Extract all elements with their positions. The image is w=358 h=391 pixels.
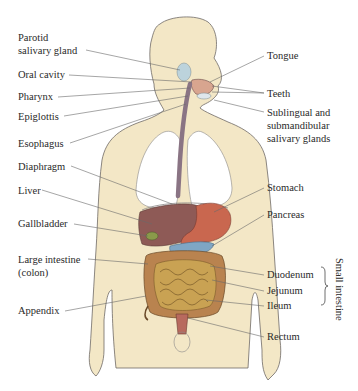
label-esophagus: Esophagus (18, 137, 64, 150)
sublingual-gland (197, 93, 211, 99)
label-tongue: Tongue (267, 49, 298, 62)
label-parotid-salivary-gland: Parotid salivary gland (18, 31, 77, 57)
label-gallbladder: Gallbladder (18, 217, 68, 230)
rectum (176, 314, 188, 334)
label-rectum: Rectum (267, 330, 300, 343)
label-liver: Liver (18, 184, 41, 197)
label-pancreas: Pancreas (267, 208, 304, 221)
label-sublingual-submandibular: Sublingual and submandibular salivary gl… (267, 106, 330, 145)
label-small-intestine: Small intestine (334, 258, 345, 321)
label-line: Large intestine (18, 253, 81, 266)
label-oral-cavity: Oral cavity (18, 68, 65, 81)
digestive-system-diagram: Parotid salivary gland Oral cavity Phary… (0, 0, 358, 391)
label-duodenum: Duodenum (267, 268, 314, 281)
label-jejunum: Jejunum (267, 284, 303, 297)
label-stomach: Stomach (267, 181, 304, 194)
label-line: Sublingual and (267, 106, 330, 119)
parotid-gland (177, 63, 191, 81)
label-teeth: Teeth (267, 87, 290, 100)
label-line: Parotid (18, 31, 77, 44)
label-line: (colon) (18, 266, 81, 279)
label-large-intestine: Large intestine (colon) (18, 253, 81, 279)
anatomy-illustration (0, 0, 358, 391)
label-epiglottis: Epiglottis (18, 110, 59, 123)
label-line: submandibular (267, 119, 330, 132)
label-pharynx: Pharynx (18, 90, 53, 103)
label-appendix: Appendix (18, 304, 59, 317)
label-ileum: Ileum (267, 299, 292, 312)
label-line: salivary glands (267, 132, 330, 145)
label-diaphragm: Diaphragm (18, 160, 65, 173)
label-line: salivary gland (18, 44, 77, 57)
small-intestine-bracket (321, 267, 328, 305)
